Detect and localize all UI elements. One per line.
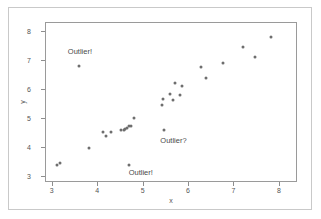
- x-axis-label: x: [169, 197, 173, 204]
- y-axis-label: y: [19, 100, 26, 104]
- x-axis-tick: [188, 182, 189, 186]
- x-axis-tick-label: 6: [186, 187, 190, 194]
- scatter-point: [221, 61, 224, 64]
- scatter-point: [101, 131, 104, 134]
- scatter-point: [171, 98, 174, 101]
- scatter-point: [160, 103, 163, 106]
- scatter-point: [129, 124, 132, 127]
- scatter-point: [254, 55, 257, 58]
- y-axis-tick: [41, 31, 45, 32]
- y-axis-tick-label: 6: [27, 85, 31, 92]
- scatter-point: [78, 65, 81, 68]
- scatter-point: [162, 129, 165, 132]
- outlier-annotation: Outlier!: [68, 46, 92, 55]
- scatter-point: [180, 85, 183, 88]
- scatter-point: [199, 66, 202, 69]
- scatter-point: [174, 82, 177, 85]
- y-axis-tick: [41, 89, 45, 90]
- y-axis-tick: [41, 60, 45, 61]
- y-axis-tick-label: 8: [27, 27, 31, 34]
- outlier-annotation: Outlier?: [160, 136, 186, 145]
- scatter-point: [205, 77, 208, 80]
- scatter-point: [178, 94, 181, 97]
- outlier-annotation: Outlier!: [129, 168, 153, 177]
- scatter-point: [105, 135, 108, 138]
- scatter-point: [168, 93, 171, 96]
- scatter-point: [88, 147, 91, 150]
- x-axis-tick: [97, 182, 98, 186]
- x-axis-tick: [279, 182, 280, 186]
- x-axis-tick: [143, 182, 144, 186]
- y-axis-tick: [41, 118, 45, 119]
- y-axis-tick: [41, 176, 45, 177]
- x-axis-tick: [52, 182, 53, 186]
- scatter-point: [241, 45, 244, 48]
- scatter-point: [58, 161, 61, 164]
- x-axis-tick: [233, 182, 234, 186]
- y-axis-tick-label: 3: [27, 172, 31, 179]
- scatter-plot-figure: 345678345678 x y Outlier!Outlier?Outlier…: [0, 0, 321, 219]
- scatter-point: [161, 98, 164, 101]
- y-axis-tick: [41, 147, 45, 148]
- x-axis-tick-label: 7: [231, 187, 235, 194]
- y-axis-tick-label: 7: [27, 56, 31, 63]
- y-axis-tick-label: 5: [27, 114, 31, 121]
- x-axis-tick-label: 8: [277, 187, 281, 194]
- x-axis-tick-label: 3: [50, 187, 54, 194]
- scatter-point: [132, 116, 135, 119]
- scatter-point: [128, 164, 131, 167]
- x-axis-tick-label: 5: [141, 187, 145, 194]
- scatter-point: [269, 36, 272, 39]
- x-axis-tick-label: 4: [95, 187, 99, 194]
- y-axis-tick-label: 4: [27, 143, 31, 150]
- scatter-point: [109, 131, 112, 134]
